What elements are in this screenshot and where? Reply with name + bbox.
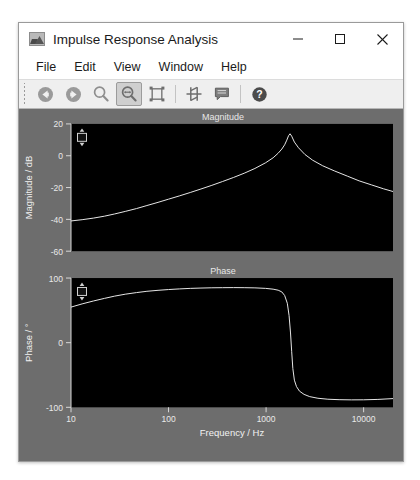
toolbar: ?	[19, 79, 403, 109]
phase-plot[interactable]: Phase 100 0 -100 Phase / °	[23, 266, 393, 438]
toolbar-separator-2	[240, 85, 241, 103]
menu-item-help[interactable]: Help	[212, 58, 256, 76]
image-chart-icon	[29, 32, 45, 46]
phase-ytick-100: 100	[49, 274, 63, 284]
phase-plot-canvas[interactable]	[71, 278, 393, 407]
help-icon: ?	[251, 86, 268, 103]
phase-y-ticks	[66, 278, 71, 407]
title-bar: Impulse Response Analysis	[19, 23, 403, 55]
menu-item-file[interactable]: File	[27, 58, 65, 76]
annotate-button[interactable]	[209, 82, 235, 106]
close-icon	[376, 33, 389, 46]
menu-bar: File Edit View Window Help	[19, 55, 403, 79]
frequency-x-ticks	[71, 407, 364, 412]
magnitude-ytick-0: 0	[58, 151, 63, 161]
zoom-button[interactable]	[88, 82, 114, 106]
magnitude-ytick-minus20: -20	[51, 183, 64, 193]
frequency-ticklabel-1000: 1000	[257, 414, 276, 424]
frequency-ticklabel-10: 10	[66, 414, 76, 424]
toolbar-grip[interactable]	[21, 83, 28, 105]
toolbar-separator-1	[175, 85, 176, 103]
menu-item-view[interactable]: View	[105, 58, 150, 76]
cursor-tool-button[interactable]	[181, 82, 207, 106]
magnitude-plot-canvas[interactable]	[71, 124, 393, 251]
plots-svg: Magnitude 20 0 -20 -40 -60	[19, 109, 403, 461]
phase-y-axis-label: Phase / °	[23, 323, 34, 362]
magnitude-plot-title: Magnitude	[202, 112, 244, 122]
annotate-icon	[213, 85, 231, 103]
pan-zoom-button[interactable]	[116, 82, 142, 106]
screenshot-root: Impulse Response Analysis	[0, 0, 420, 480]
pan-zoom-icon	[120, 85, 138, 103]
minimize-button[interactable]	[277, 23, 319, 55]
forward-button[interactable]	[60, 82, 86, 106]
close-button[interactable]	[361, 23, 403, 55]
fit-bounds-button[interactable]	[144, 82, 170, 106]
window-title: Impulse Response Analysis	[53, 32, 277, 47]
phase-ytick-minus100: -100	[46, 403, 63, 413]
application-window: Impulse Response Analysis	[18, 22, 404, 462]
help-button[interactable]: ?	[246, 82, 272, 106]
phase-ytick-0: 0	[58, 338, 63, 348]
maximize-icon	[334, 33, 346, 45]
magnitude-ytick-minus40: -40	[51, 215, 64, 225]
cursor-tool-icon	[185, 85, 203, 103]
menu-item-window[interactable]: Window	[150, 58, 212, 76]
window-controls	[277, 23, 403, 55]
maximize-button[interactable]	[319, 23, 361, 55]
frequency-x-axis-label: Frequency / Hz	[200, 427, 265, 438]
magnitude-ytick-minus60: -60	[51, 247, 64, 257]
frequency-ticklabel-100: 100	[161, 414, 175, 424]
minimize-icon	[292, 33, 304, 45]
frequency-x-ticklabels: 10100100010000	[66, 414, 375, 424]
magnitude-y-axis-label: Magnitude / dB	[23, 156, 34, 220]
plot-area[interactable]: Magnitude 20 0 -20 -40 -60	[19, 109, 403, 461]
fit-bounds-icon	[148, 85, 166, 103]
zoom-icon	[92, 85, 110, 103]
frequency-ticklabel-10000: 10000	[352, 414, 376, 424]
back-icon	[37, 86, 54, 103]
magnitude-ytick-20: 20	[54, 119, 64, 129]
svg-text:?: ?	[256, 88, 262, 100]
magnitude-plot[interactable]: Magnitude 20 0 -20 -40 -60	[23, 112, 393, 257]
forward-icon	[65, 86, 82, 103]
phase-plot-title: Phase	[210, 266, 236, 276]
magnitude-y-ticks	[66, 124, 71, 251]
menu-item-edit[interactable]: Edit	[65, 58, 105, 76]
back-button[interactable]	[32, 82, 58, 106]
